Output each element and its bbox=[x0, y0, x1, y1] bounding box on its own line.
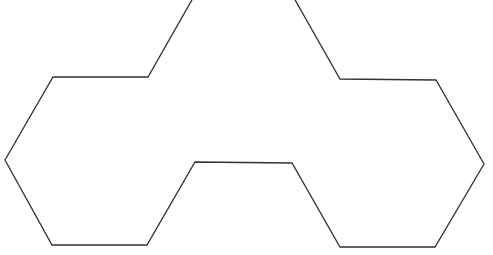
hexagon-cluster-outline bbox=[5, 0, 484, 247]
hexagon-outline-diagram bbox=[0, 0, 493, 255]
